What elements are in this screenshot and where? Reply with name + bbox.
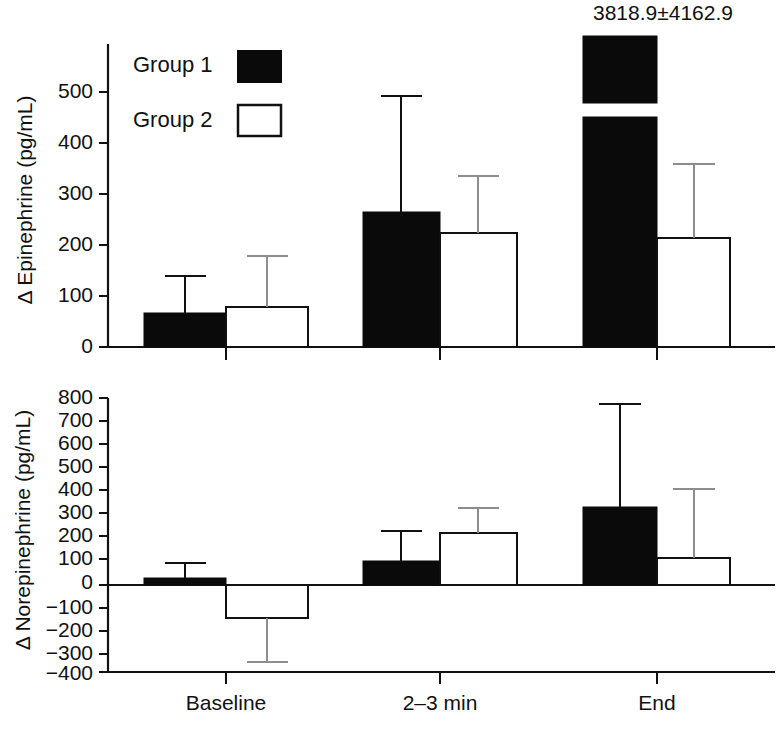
norepinephrine-errorbar-group2-baseline xyxy=(247,618,288,662)
epinephrine-bar-group1-2-3min xyxy=(363,212,440,347)
norepinephrine-ytick-200: 200 xyxy=(58,523,93,546)
norepinephrine-x-ticks xyxy=(226,672,657,684)
legend-label-group1: Group 1 xyxy=(133,52,213,77)
epinephrine-errorbar-group1-baseline xyxy=(165,276,206,313)
epinephrine-panel: 3818.9±4162.9 Δ Epinephrine (pg/mL) 0 10… xyxy=(0,0,783,370)
norepinephrine-ytick-m200: −200 xyxy=(46,618,93,641)
epinephrine-bar-group1-end-lower-segment xyxy=(583,117,657,347)
norepinephrine-bar-group1-baseline xyxy=(144,578,226,585)
epinephrine-chart: 3818.9±4162.9 Δ Epinephrine (pg/mL) 0 10… xyxy=(0,0,783,370)
epinephrine-bar-group2-baseline xyxy=(226,307,308,347)
legend: Group 1 Group 2 xyxy=(133,51,281,136)
norepinephrine-errorbar-group1-baseline xyxy=(165,563,206,578)
norepinephrine-chart: Δ Norepinephrine (pg/mL) xyxy=(0,370,783,733)
norepinephrine-errorbar-group1-2-3min xyxy=(381,531,422,561)
epinephrine-annotation-label: 3818.9±4162.9 xyxy=(593,1,733,24)
norepinephrine-errorbar-group2-end xyxy=(673,489,715,558)
norepinephrine-ytick-100: 100 xyxy=(58,546,93,569)
epinephrine-ytick-500: 500 xyxy=(58,79,93,102)
epinephrine-errorbar-group2-2-3min xyxy=(458,176,499,233)
epinephrine-ytick-300: 300 xyxy=(58,181,93,204)
norepinephrine-y-axis-title: Δ Norepinephrine (pg/mL) xyxy=(11,410,34,651)
epinephrine-ytick-400: 400 xyxy=(58,130,93,153)
norepinephrine-ytick-300: 300 xyxy=(58,500,93,523)
norepinephrine-bar-group2-end xyxy=(657,558,730,585)
norepinephrine-errorbar-group1-end xyxy=(599,404,641,507)
norepinephrine-errorbar-group2-2-3min xyxy=(458,508,499,533)
epinephrine-ytick-0: 0 xyxy=(81,334,93,357)
norepinephrine-ytick-800: 800 xyxy=(58,385,93,408)
norepinephrine-y-ticks xyxy=(99,398,108,672)
epinephrine-bar-group1-end-upper-segment xyxy=(583,36,657,103)
norepinephrine-ytick-600: 600 xyxy=(58,431,93,454)
figure-root: 3818.9±4162.9 Δ Epinephrine (pg/mL) 0 10… xyxy=(0,0,783,733)
x-category-label-baseline: Baseline xyxy=(186,691,267,714)
epinephrine-bar-group1-baseline xyxy=(144,313,226,347)
norepinephrine-ytick-500: 500 xyxy=(58,454,93,477)
epinephrine-y-ticks xyxy=(99,92,108,347)
epinephrine-ytick-100: 100 xyxy=(58,283,93,306)
epinephrine-bar-group2-2-3min xyxy=(440,233,517,347)
x-category-label-end: End xyxy=(638,691,675,714)
norepinephrine-ytick-0: 0 xyxy=(81,570,93,593)
norepinephrine-panel: Δ Norepinephrine (pg/mL) xyxy=(0,370,783,733)
norepinephrine-bar-group1-end xyxy=(583,507,657,585)
legend-label-group2: Group 2 xyxy=(133,107,213,132)
norepinephrine-bar-group2-2-3min xyxy=(440,533,517,585)
legend-swatch-group1 xyxy=(238,51,281,82)
norepinephrine-ytick-m400: −400 xyxy=(46,661,93,684)
legend-swatch-group2 xyxy=(238,105,281,136)
epinephrine-y-axis-title: Δ Epinephrine (pg/mL) xyxy=(13,96,36,305)
epinephrine-errorbar-group2-baseline xyxy=(247,256,288,307)
norepinephrine-ytick-700: 700 xyxy=(58,408,93,431)
norepinephrine-bar-group1-2-3min xyxy=(363,561,440,585)
norepinephrine-bar-group2-baseline xyxy=(226,585,308,618)
epinephrine-errorbar-group2-end xyxy=(673,164,715,238)
norepinephrine-ytick-m100: −100 xyxy=(46,595,93,618)
epinephrine-x-ticks xyxy=(226,347,657,360)
norepinephrine-ytick-400: 400 xyxy=(58,477,93,500)
x-category-label-2-3min: 2–3 min xyxy=(403,691,478,714)
epinephrine-ytick-200: 200 xyxy=(58,232,93,255)
epinephrine-errorbar-group1-2-3min xyxy=(381,96,422,212)
epinephrine-bar-group2-end xyxy=(657,238,730,347)
